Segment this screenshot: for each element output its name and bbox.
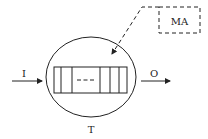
output-label: O [150,68,158,79]
t-label: T [88,124,95,135]
input-label: I [22,68,26,79]
t-circle [46,37,136,117]
diagram-canvas: MA I O T [0,0,208,139]
ma-pointer-arrow [112,7,159,54]
ma-label: MA [171,16,189,27]
